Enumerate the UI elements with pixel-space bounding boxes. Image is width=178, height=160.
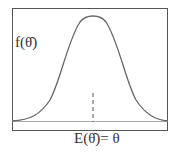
normal-curve (12, 16, 168, 121)
x-axis-label: E(θ̂)= θ (74, 130, 120, 147)
plot-frame (13, 9, 168, 131)
y-axis-label: f(θ̂) (15, 34, 37, 51)
